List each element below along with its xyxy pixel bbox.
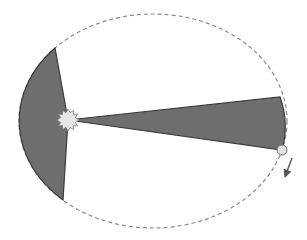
planet-icon	[277, 145, 287, 155]
motion-arrow-icon	[286, 158, 292, 174]
perihelion-side-sector	[68, 97, 285, 150]
kepler-diagram	[0, 0, 307, 240]
